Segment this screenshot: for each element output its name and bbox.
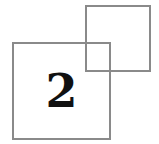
chapter-number: 2 <box>12 42 111 140</box>
